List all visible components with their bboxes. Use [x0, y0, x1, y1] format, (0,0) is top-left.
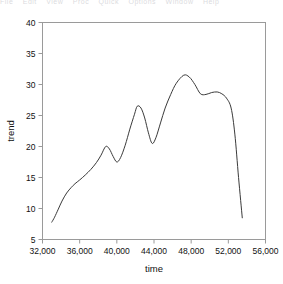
x-tick-label: 52,000: [215, 246, 241, 256]
y-axis-ticks: [39, 23, 43, 240]
series-line-trend: [52, 75, 242, 222]
trend-chart: 32,00036,00040,00044,00048,00052,00056,0…: [0, 0, 283, 284]
y-tick-label: 20: [26, 142, 36, 152]
y-tick-label: 5: [31, 235, 36, 245]
plot-frame: [43, 23, 266, 240]
x-tick-label: 44,000: [141, 246, 167, 256]
x-tick-label: 56,000: [253, 246, 279, 256]
data-series-line: [52, 75, 242, 222]
y-tick-label: 35: [26, 49, 36, 59]
y-tick-label: 25: [26, 111, 36, 121]
x-tick-label: 48,000: [178, 246, 204, 256]
x-tick-label: 40,000: [104, 246, 130, 256]
x-tick-label: 32,000: [30, 246, 56, 256]
y-tick-label: 40: [26, 18, 36, 28]
y-tick-label: 30: [26, 80, 36, 90]
y-tick-label: 15: [26, 173, 36, 183]
x-tick-label: 36,000: [67, 246, 93, 256]
chart-window: File Edit View Proc Quick Options Window…: [0, 0, 283, 284]
x-axis-tick-labels: 32,00036,00040,00044,00048,00052,00056,0…: [30, 246, 279, 256]
x-axis-ticks: [43, 240, 266, 244]
y-axis-title: trend: [5, 120, 16, 142]
x-axis-title: time: [145, 263, 163, 274]
y-tick-label: 10: [26, 204, 36, 214]
chart-canvas: 32,00036,00040,00044,00048,00052,00056,0…: [0, 0, 283, 284]
y-axis-tick-labels: 510152025303540: [26, 18, 36, 245]
